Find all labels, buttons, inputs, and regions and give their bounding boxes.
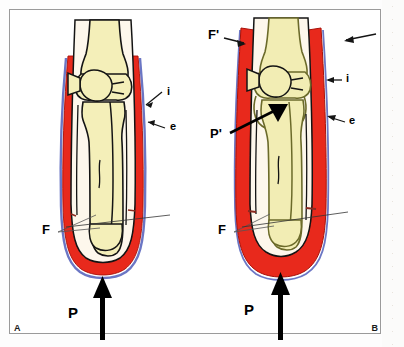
anatomy-figure: i e F P A xyxy=(0,0,404,347)
pressure-arrow-a xyxy=(93,276,112,340)
leader-unlabeled-b xyxy=(344,34,376,43)
panel-b-drawing xyxy=(196,10,382,335)
label-p-b: P xyxy=(244,302,254,317)
panel-a: i e F P A xyxy=(10,10,196,335)
leader-e-a xyxy=(148,120,165,128)
label-p-a: P xyxy=(68,305,78,320)
pressure-arrow-b xyxy=(271,272,290,340)
label-f-b: F xyxy=(218,223,226,236)
patella-a xyxy=(80,70,112,101)
panel-b: F' i e P' F P B xyxy=(196,10,382,335)
paper-edge xyxy=(382,0,404,347)
panel-letter-b: B xyxy=(372,323,379,333)
distal-bone-tip-a xyxy=(89,224,122,250)
label-i-a: i xyxy=(167,86,170,97)
label-f-a: F xyxy=(42,223,50,236)
label-f-prime-b: F' xyxy=(208,28,219,41)
leader-i-a xyxy=(146,92,162,108)
label-p-prime-b: P' xyxy=(210,127,222,140)
label-i-b: i xyxy=(346,73,349,84)
distal-bone-tip-b xyxy=(268,220,301,246)
leader-i-b xyxy=(326,77,342,83)
patella-b xyxy=(259,66,291,97)
label-e-b: e xyxy=(349,115,355,126)
label-e-a: e xyxy=(170,121,176,132)
panel-letter-a: A xyxy=(14,323,21,333)
paper-speckle-texture xyxy=(386,0,400,347)
leader-e-b xyxy=(327,115,345,122)
panel-a-drawing xyxy=(10,10,196,335)
figure-frame: i e F P A xyxy=(9,9,381,334)
